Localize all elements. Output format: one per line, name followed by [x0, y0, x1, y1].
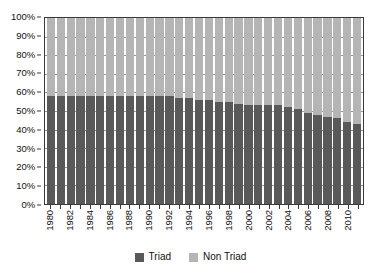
bar-segment-triad — [175, 98, 183, 204]
x-axis-label-slot: 2000 — [245, 210, 253, 256]
x-axis-tick-label: 1986 — [105, 210, 115, 231]
x-axis-tick-mark — [76, 205, 84, 209]
bar-segment-non-triad — [195, 18, 203, 100]
x-axis-tick-mark — [185, 205, 193, 209]
y-axis-tick-label: 0% — [21, 200, 35, 210]
bar-segment-non-triad — [353, 18, 361, 124]
x-axis-tick-mark — [95, 205, 103, 209]
bar-segment-non-triad — [106, 18, 114, 96]
legend-swatch-icon — [135, 253, 144, 262]
y-axis-tick-mark — [37, 205, 41, 206]
legend-item[interactable]: Triad — [135, 252, 171, 262]
y-axis-tick-mark — [37, 111, 41, 112]
x-axis-label-slot: 1984 — [86, 210, 94, 256]
x-axis-tick-mark — [46, 205, 54, 209]
bar-segment-triad — [165, 96, 173, 204]
bar-column — [136, 18, 144, 204]
y-axis-tick-mark — [37, 73, 41, 74]
x-axis-label-slot — [354, 210, 362, 256]
x-axis-tick-mark — [324, 205, 332, 209]
bar-segment-triad — [353, 124, 361, 204]
bar-segment-triad — [333, 118, 341, 204]
bar-segment-triad — [47, 96, 55, 204]
x-axis-label-slot: 1982 — [66, 210, 74, 256]
x-axis-tick-label: 1992 — [164, 210, 174, 231]
bar-column — [313, 18, 321, 204]
bar-column — [333, 18, 341, 204]
x-axis-tick-mark — [205, 205, 213, 209]
y-axis-tick-mark — [37, 92, 41, 93]
bar-column — [264, 18, 272, 204]
y-axis-tick-mark — [37, 17, 41, 18]
bar-segment-non-triad — [96, 18, 104, 96]
x-axis-tick-mark — [66, 205, 74, 209]
bar-segment-non-triad — [146, 18, 154, 96]
bar-column — [353, 18, 361, 204]
y-axis-tick-label: 30% — [16, 144, 35, 154]
bar-column — [126, 18, 134, 204]
bar-segment-non-triad — [57, 18, 65, 96]
bar-segment-triad — [136, 96, 144, 204]
bar-segment-non-triad — [225, 18, 233, 102]
x-axis-tick-mark — [56, 205, 64, 209]
bar-column — [165, 18, 173, 204]
bar-segment-triad — [313, 115, 321, 204]
x-axis-tick-mark — [215, 205, 223, 209]
bar-segment-triad — [284, 107, 292, 204]
bar-segment-non-triad — [165, 18, 173, 96]
x-axis-tick-mark — [165, 205, 173, 209]
bar-segment-triad — [96, 96, 104, 204]
bar-segment-triad — [274, 105, 282, 204]
y-axis-tick-mark — [37, 35, 41, 36]
legend-label: Non Triad — [203, 252, 246, 262]
x-axis-tick-mark — [86, 205, 94, 209]
x-axis-tick-mark — [115, 205, 123, 209]
x-axis-label-slot — [195, 210, 203, 256]
bar-segment-triad — [67, 96, 75, 204]
x-axis-tick-mark — [274, 205, 282, 209]
x-axis-label-slot: 1990 — [145, 210, 153, 256]
x-axis-label-slot — [235, 210, 243, 256]
x-axis-tick-mark — [294, 205, 302, 209]
bar-segment-non-triad — [126, 18, 134, 96]
bar-segment-non-triad — [274, 18, 282, 105]
bar-segment-non-triad — [234, 18, 242, 104]
x-axis-tick-label: 1982 — [65, 210, 75, 231]
x-axis-tick-label: 2000 — [244, 210, 254, 231]
x-axis-label-slot: 2002 — [264, 210, 272, 256]
x-axis-tick-label: 1980 — [45, 210, 55, 231]
bar-segment-non-triad — [313, 18, 321, 115]
bar-segment-non-triad — [254, 18, 262, 105]
bar-segment-non-triad — [155, 18, 163, 96]
bar-segment-non-triad — [47, 18, 55, 96]
y-axis-tick-label: 100% — [11, 12, 35, 22]
x-axis-tick-label: 2008 — [323, 210, 333, 231]
bar-column — [57, 18, 65, 204]
x-axis-tick-label: 1998 — [224, 210, 234, 231]
bar-segment-triad — [146, 96, 154, 204]
x-axis-label-slot — [215, 210, 223, 256]
x-axis-label-slot: 2006 — [304, 210, 312, 256]
bar-column — [343, 18, 351, 204]
legend-label: Triad — [149, 252, 171, 262]
y-axis-tick-mark — [37, 54, 41, 55]
y-axis-tick-label: 10% — [16, 181, 35, 191]
x-axis-label-slot — [76, 210, 84, 256]
y-axis: 0%10%20%30%40%50%60%70%80%90%100% — [0, 17, 41, 205]
bar-segment-triad — [126, 96, 134, 204]
legend-item[interactable]: Non Triad — [189, 252, 246, 262]
x-axis-tick-mark — [225, 205, 233, 209]
x-axis-label-slot: 1980 — [46, 210, 54, 256]
x-axis-label-slot — [56, 210, 64, 256]
x-axis-tick-mark — [135, 205, 143, 209]
chart-legend: TriadNon Triad — [0, 252, 381, 262]
bar-segment-triad — [225, 102, 233, 204]
bar-segment-triad — [205, 100, 213, 204]
bar-column — [205, 18, 213, 204]
y-axis-tick-label: 80% — [16, 50, 35, 60]
bar-column — [304, 18, 312, 204]
x-axis-tick-label: 1994 — [184, 210, 194, 231]
bar-column — [234, 18, 242, 204]
stacked-bar-chart: 0%10%20%30%40%50%60%70%80%90%100% 198019… — [0, 0, 381, 279]
x-axis-tick-mark — [145, 205, 153, 209]
